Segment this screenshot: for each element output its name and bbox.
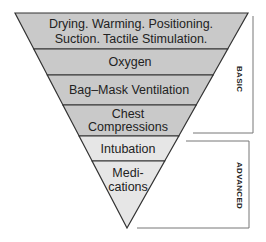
band-label-line: Suction. Tactile Stimulation. — [55, 32, 208, 46]
advanced-label: ADVANCED — [235, 162, 244, 209]
pyramid-band-oxygen: Oxygen — [34, 49, 228, 75]
pyramid-band-bag-mask-ventilation: Bag–Mask Ventilation — [47, 75, 213, 105]
pyramid-band-medications: Medi- cations — [92, 161, 165, 228]
band-label-line: Oxygen — [108, 55, 151, 69]
pyramid-band-chest-compressions: Chest Compressions — [63, 105, 196, 136]
pyramid-band-intubation: Intubation — [79, 136, 179, 161]
band-label-line: Compressions — [88, 120, 168, 134]
band-label-line: Intubation — [101, 142, 156, 156]
basic-label: BASIC — [235, 66, 244, 92]
band-label-line: cations — [108, 180, 148, 194]
band-label-line: Medi- — [112, 166, 143, 180]
resuscitation-pyramid-diagram: Drying. Warming. Positioning. Suction. T… — [0, 0, 266, 242]
band-label-line: Chest — [112, 107, 145, 121]
band-label-line: Bag–Mask Ventilation — [69, 83, 189, 97]
pyramid-band-stabilization: Drying. Warming. Positioning. Suction. T… — [15, 13, 248, 49]
band-label-line: Drying. Warming. Positioning. — [49, 17, 213, 31]
